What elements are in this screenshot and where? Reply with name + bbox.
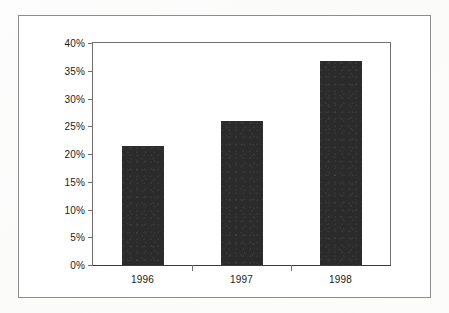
bar-1998[interactable] bbox=[320, 61, 362, 265]
bar-1997[interactable] bbox=[221, 121, 263, 265]
chart-plot-area: 0%5%10%15%20%25%30%35%40% 199619971998 bbox=[92, 42, 391, 266]
y-axis-tick bbox=[88, 99, 93, 100]
y-axis-tick-label: 35% bbox=[64, 65, 85, 76]
y-axis-tick-label: 25% bbox=[64, 121, 85, 132]
figure-frame: 0%5%10%15%20%25%30%35%40% 199619971998 bbox=[18, 15, 431, 298]
y-axis-tick bbox=[88, 154, 93, 155]
bar-1996[interactable] bbox=[122, 146, 164, 265]
x-axis-separator bbox=[291, 265, 292, 271]
y-axis-tick-label: 15% bbox=[64, 176, 85, 187]
y-axis-tick bbox=[88, 126, 93, 127]
y-axis-tick-label: 10% bbox=[64, 204, 85, 215]
y-axis-tick bbox=[88, 71, 93, 72]
y-axis-tick-label: 40% bbox=[64, 38, 85, 49]
y-axis-tick bbox=[88, 210, 93, 211]
x-axis-label-1998: 1998 bbox=[329, 274, 352, 285]
x-axis-label-1996: 1996 bbox=[131, 274, 154, 285]
y-axis-tick bbox=[88, 43, 93, 44]
y-axis-tick-label: 20% bbox=[64, 149, 85, 160]
page-background: 0%5%10%15%20%25%30%35%40% 199619971998 bbox=[0, 0, 449, 313]
y-axis-tick-label: 5% bbox=[70, 232, 85, 243]
y-axis-tick-label: 0% bbox=[70, 260, 85, 271]
y-axis-tick-label: 30% bbox=[64, 93, 85, 104]
x-axis-label-1997: 1997 bbox=[230, 274, 253, 285]
x-axis-separator bbox=[192, 265, 193, 271]
y-axis-tick bbox=[88, 237, 93, 238]
y-axis-tick bbox=[88, 265, 93, 266]
y-axis-tick bbox=[88, 182, 93, 183]
